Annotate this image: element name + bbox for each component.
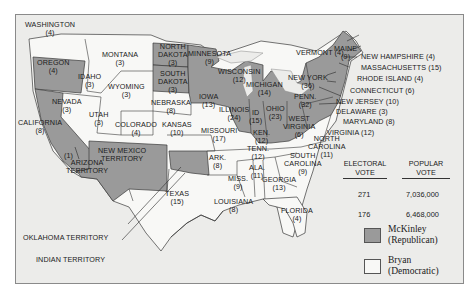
label-louisiana: LOUISIANA(8)	[214, 198, 253, 214]
label-iowa: IOWA(13)	[199, 93, 218, 109]
label-massachusetts: MASSACHUSETTS (15)	[361, 64, 441, 72]
label-new-york: NEW YORK(36)	[288, 74, 328, 90]
label-utah: UTAH(3)	[89, 111, 108, 127]
label-mississippi: MISS.(9)	[228, 175, 248, 191]
mckinley-popular-vote: 7,036,000	[406, 190, 439, 199]
label-kansas: KANSAS(10)	[162, 121, 192, 137]
label-pennsylvania: PENN.(32)	[294, 93, 316, 109]
mckinley-electoral-vote: 271	[358, 190, 370, 199]
label-north-dakota: NORTHDAKOTA(3)	[158, 43, 188, 67]
label-nebraska: NEBRASKA(8)	[151, 99, 191, 115]
label-new-jersey: NEW JERSEY (10)	[336, 98, 399, 106]
label-texas: TEXAS(15)	[165, 190, 189, 206]
mckinley-swatch	[364, 228, 381, 243]
label-maryland: MARYLAND (8)	[343, 118, 395, 126]
label-arizona-territory: ARIZONATERRITORY	[66, 159, 108, 175]
map-frame: WASHINGTON(4) OREGON(4) CALIFORNIA(8) ID…	[15, 14, 464, 284]
label-delaware: DELAWARE (3)	[336, 108, 388, 116]
label-new-hampshire: NEW HAMPSHIRE (4)	[361, 53, 435, 61]
header-popular-vote: POPULARVOTE	[402, 160, 450, 179]
label-montana: MONTANA(3)	[102, 51, 138, 67]
mckinley-legend-label: McKinley(Republican)	[388, 224, 438, 246]
label-connecticut: CONNECTICUT (6)	[350, 87, 414, 95]
label-south-carolina: SOUTHCAROLINA(9)	[284, 152, 322, 176]
bryan-electoral-vote: 176	[358, 210, 370, 219]
label-split-vote: (1)	[64, 152, 73, 160]
bryan-legend-label: Bryan(Democratic)	[388, 255, 439, 277]
label-nevada: NEVADA(3)	[52, 98, 82, 114]
label-rhode-island: RHODE ISLAND (4)	[357, 75, 423, 83]
label-florida: FLORIDA(4)	[281, 207, 313, 223]
label-minnesota: MINNESOTA(9)	[188, 50, 231, 66]
label-tennessee: TENN.(12)	[247, 145, 269, 161]
label-california: CALIFORNIA(8)	[18, 119, 62, 135]
label-ohio: OHIO(23)	[266, 105, 285, 121]
label-colorado: COLORADO(4)	[115, 121, 157, 137]
label-indian-territory: INDIAN TERRITORY	[36, 256, 105, 264]
bryan-popular-vote: 6,468,000	[406, 210, 439, 219]
label-washington: WASHINGTON(4)	[25, 21, 75, 37]
label-michigan: MICHIGAN(14)	[246, 81, 283, 97]
label-arkansas: ARK.(8)	[209, 154, 226, 170]
bryan-swatch	[364, 259, 381, 274]
label-south-dakota: SOUTHDAKOTA(3)	[158, 70, 188, 94]
label-oklahoma-territory: OKLAHOMA TERRITORY	[23, 234, 108, 242]
label-illinois: ILLINOIS(24)	[219, 106, 249, 122]
label-georgia: GEORGIA(13)	[262, 176, 296, 192]
label-oregon: OREGON(4)	[37, 59, 70, 75]
label-kentucky: KEN.(12)	[253, 129, 270, 145]
label-idaho: IDAHO(3)	[78, 73, 101, 89]
label-maine: MAINE(9)	[334, 45, 357, 61]
header-electoral-vote: ELECTORALVOTE	[343, 160, 387, 179]
label-missouri: MISSOURI(17)	[201, 127, 237, 143]
label-indiana: ID(15)	[249, 109, 262, 125]
label-wyoming: WYOMING(3)	[108, 83, 145, 99]
